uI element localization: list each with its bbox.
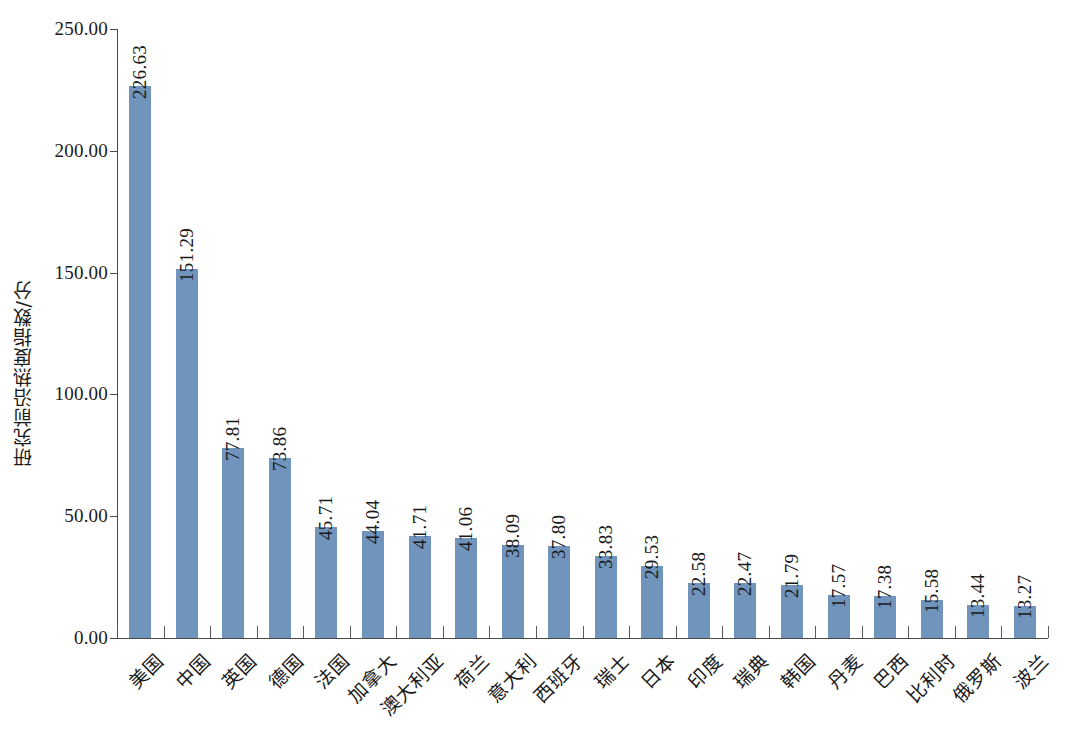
y-axis-title-label: 研究前沿热度指数/分 bbox=[9, 280, 36, 467]
x-axis-label: 英国 bbox=[219, 651, 260, 692]
x-axis-tick bbox=[629, 626, 630, 638]
bar-chart: 研究前沿热度指数/分 0.0050.00100.00150.00200.0025… bbox=[0, 0, 1066, 748]
x-axis-label: 瑞典 bbox=[731, 651, 772, 692]
x-axis-tick bbox=[257, 626, 258, 638]
y-axis-tick bbox=[110, 394, 118, 395]
bar-value-label: 38.09 bbox=[503, 514, 522, 558]
x-axis-label: 印度 bbox=[684, 651, 725, 692]
bar-value-label: 45.71 bbox=[316, 495, 335, 539]
x-axis-label: 美国 bbox=[126, 651, 167, 692]
x-axis-tick bbox=[862, 626, 863, 638]
x-axis-label: 波兰 bbox=[1010, 651, 1051, 692]
y-axis-tick bbox=[110, 273, 118, 274]
x-axis-tick bbox=[1048, 626, 1049, 638]
y-axis-tick-label: 150.00 bbox=[55, 263, 108, 282]
bar-value-label: 21.79 bbox=[782, 554, 801, 598]
y-axis-tick-label: 200.00 bbox=[55, 141, 108, 160]
y-axis-tick-label: 250.00 bbox=[55, 19, 108, 38]
bar-value-label: 22.58 bbox=[689, 552, 708, 596]
bar[interactable] bbox=[409, 536, 431, 638]
x-axis-tick bbox=[443, 626, 444, 638]
x-axis-tick bbox=[303, 626, 304, 638]
x-axis-tick bbox=[117, 626, 118, 638]
bar[interactable] bbox=[455, 538, 477, 638]
y-axis-line bbox=[117, 29, 118, 638]
x-axis-tick bbox=[489, 626, 490, 638]
x-axis-label: 俄罗斯 bbox=[950, 651, 1005, 706]
y-axis-tick-label: 50.00 bbox=[64, 506, 108, 525]
y-axis-tick bbox=[110, 151, 118, 152]
bar-value-label: 73.86 bbox=[270, 427, 289, 471]
x-axis-tick bbox=[396, 626, 397, 638]
x-axis-tick bbox=[955, 626, 956, 638]
bar-value-label: 33.83 bbox=[596, 524, 615, 568]
bar-value-label: 41.06 bbox=[456, 507, 475, 551]
bar[interactable] bbox=[362, 531, 384, 638]
x-axis-label: 西班牙 bbox=[531, 651, 586, 706]
bar-value-label: 37.80 bbox=[549, 515, 568, 559]
bar-value-label: 13.27 bbox=[1015, 574, 1034, 618]
x-axis-label: 德国 bbox=[265, 651, 306, 692]
bar[interactable] bbox=[269, 458, 291, 638]
y-axis-tick-label: 0.00 bbox=[74, 628, 108, 647]
x-axis-tick bbox=[1001, 626, 1002, 638]
x-axis-tick bbox=[164, 626, 165, 638]
x-axis-tick bbox=[210, 626, 211, 638]
bar[interactable] bbox=[176, 269, 198, 638]
bar[interactable] bbox=[502, 545, 524, 638]
y-axis-tick bbox=[110, 516, 118, 517]
bar-value-label: 13.44 bbox=[968, 574, 987, 618]
x-axis-label: 丹麦 bbox=[824, 651, 865, 692]
x-axis-tick bbox=[350, 626, 351, 638]
bar[interactable] bbox=[548, 546, 570, 638]
x-axis-label: 中国 bbox=[172, 651, 213, 692]
x-axis-tick bbox=[815, 626, 816, 638]
bar[interactable] bbox=[315, 527, 337, 638]
x-axis-tick bbox=[908, 626, 909, 638]
x-axis-tick bbox=[536, 626, 537, 638]
x-axis-line bbox=[117, 638, 1048, 639]
x-axis-label: 日本 bbox=[638, 651, 679, 692]
y-axis-tick bbox=[110, 29, 118, 30]
x-axis-tick bbox=[583, 626, 584, 638]
x-axis-tick bbox=[722, 626, 723, 638]
bar-value-label: 17.57 bbox=[829, 564, 848, 608]
x-axis-label: 韩国 bbox=[777, 651, 818, 692]
bar-value-label: 44.04 bbox=[363, 499, 382, 543]
y-axis-tick-label: 100.00 bbox=[55, 384, 108, 403]
x-axis-label: 瑞士 bbox=[591, 651, 632, 692]
x-axis-label: 比利时 bbox=[903, 651, 958, 706]
bar-value-label: 29.53 bbox=[642, 535, 661, 579]
x-axis-label: 意大利 bbox=[484, 651, 539, 706]
bar-value-label: 22.47 bbox=[735, 552, 754, 596]
bar-value-label: 17.38 bbox=[875, 564, 894, 608]
bar-value-label: 151.29 bbox=[177, 228, 196, 282]
bar-value-label: 226.63 bbox=[130, 45, 149, 99]
x-axis-tick bbox=[676, 626, 677, 638]
x-axis-tick bbox=[769, 626, 770, 638]
y-axis-tick bbox=[110, 638, 118, 639]
bar-value-label: 77.81 bbox=[223, 417, 242, 461]
bar[interactable] bbox=[222, 448, 244, 638]
bar-value-label: 41.71 bbox=[410, 505, 429, 549]
bar[interactable] bbox=[129, 86, 151, 638]
y-axis-title: 研究前沿热度指数/分 bbox=[8, 0, 36, 748]
bar-value-label: 15.58 bbox=[922, 569, 941, 613]
